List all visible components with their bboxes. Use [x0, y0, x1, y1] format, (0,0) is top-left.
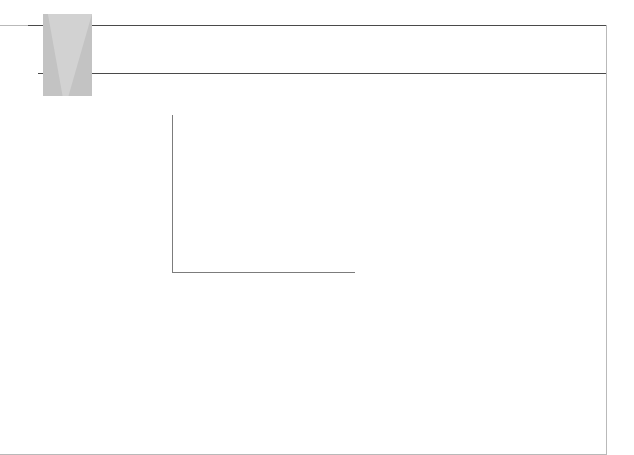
- chapter-tab: [43, 14, 92, 96]
- pie-chart: [148, 316, 368, 416]
- bar-chart-x-axis: [172, 272, 355, 273]
- header-rule-bottom: [38, 73, 606, 74]
- header-rule-top: [28, 25, 606, 26]
- figure-15-7-caption: [34, 326, 154, 350]
- bar-chart: [140, 105, 365, 280]
- chapter-tab-wedge-shape: [43, 14, 92, 96]
- figure-15-6-caption: [34, 104, 154, 128]
- bar-chart-y-axis: [172, 115, 173, 273]
- figure-15-6-heading: [34, 104, 154, 122]
- figure-15-7-heading: [34, 326, 154, 344]
